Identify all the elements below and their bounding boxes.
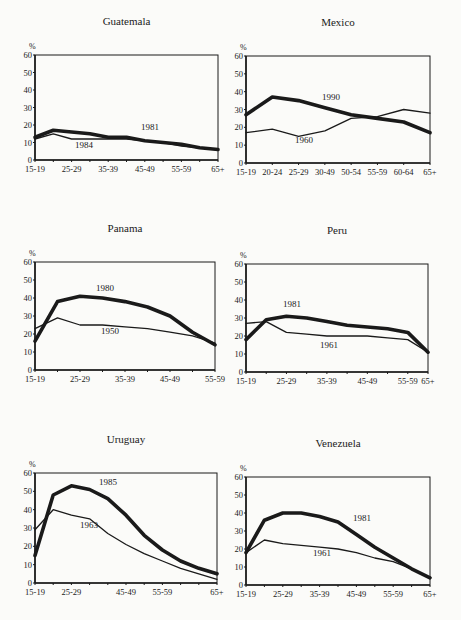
chart-venezuela: Venezuela%010203040506015-1925-2935-3945…	[0, 0, 461, 620]
series-line-1961	[246, 540, 430, 578]
x-tick-label: 55-59	[383, 589, 403, 599]
series-label: 1961	[313, 548, 331, 558]
y-tick-label: 50	[235, 490, 244, 500]
x-tick-label: 45-49	[346, 589, 366, 599]
series-line-1981	[246, 513, 430, 578]
x-tick-label: 65+	[423, 589, 437, 599]
y-tick-label: 20	[235, 544, 244, 554]
y-tick-label: 40	[235, 508, 244, 518]
plot-frame	[246, 477, 430, 585]
series-label: 1981	[353, 513, 371, 523]
y-tick-label: 60	[235, 472, 244, 482]
x-tick-label: 15-19	[236, 589, 256, 599]
y-tick-label: 10	[235, 562, 244, 572]
chart-title: Venezuela	[315, 437, 360, 449]
y-tick-label: 30	[235, 526, 244, 536]
x-tick-label: 35-39	[310, 589, 330, 599]
x-tick-label: 25-29	[273, 589, 293, 599]
